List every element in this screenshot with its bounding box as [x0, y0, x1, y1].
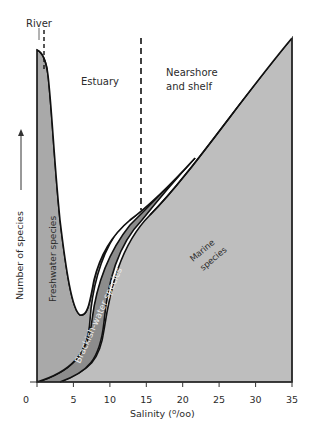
up-arrow-icon — [18, 129, 24, 136]
x-tick-label: 20 — [177, 394, 189, 405]
x-tick-label: 25 — [213, 394, 225, 405]
x-tick-label: 5 — [70, 394, 76, 405]
x-tick-label: 0 — [23, 394, 29, 405]
nearshore-label-line2: and shelf — [166, 81, 212, 92]
x-axis-label: Salinity (o/oo) — [130, 408, 195, 419]
y-axis-label: Number of species — [14, 211, 25, 300]
x-tick-label: 35 — [286, 394, 298, 405]
freshwater-species-label: Freshwater species — [48, 216, 58, 302]
x-tick-label: 15 — [140, 394, 152, 405]
x-tick-label: 30 — [250, 394, 262, 405]
estuary-label: Estuary — [81, 76, 119, 87]
x-tick-label: 10 — [104, 394, 116, 405]
nearshore-label: Nearshore — [166, 67, 218, 78]
species-salinity-diagram: 0 5 10 15 20 25 30 35 Salinity (o/oo) Nu… — [0, 0, 312, 441]
river-label: River — [26, 18, 53, 29]
